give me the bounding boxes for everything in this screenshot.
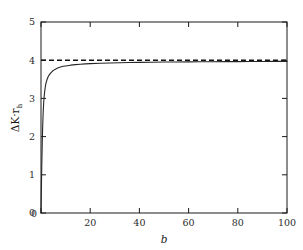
y-tick-label: 4 <box>29 55 35 66</box>
y-tick-label: 5 <box>29 16 35 27</box>
x-tick-label-zero: 0 <box>31 208 37 219</box>
y-axis-title-subscript: h <box>16 103 24 108</box>
x-tick-label: 100 <box>278 217 296 228</box>
x-tick-label: 40 <box>133 217 145 228</box>
y-tick-label: 1 <box>29 169 35 180</box>
x-tick-label: 20 <box>84 217 96 228</box>
x-tick-label: 60 <box>183 217 195 228</box>
y-tick-label: 3 <box>29 93 35 104</box>
figure-container: 012345 204060801000 b ΔK·rh <box>0 0 303 250</box>
chart-plot: 012345 204060801000 b ΔK·rh <box>0 0 303 250</box>
x-tick-label: 80 <box>232 217 244 228</box>
x-axis-title: b <box>161 233 168 245</box>
y-axis-title-main: ΔK·r <box>9 107 21 132</box>
y-tick-label: 2 <box>29 131 35 142</box>
